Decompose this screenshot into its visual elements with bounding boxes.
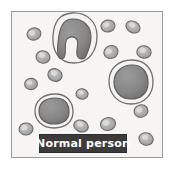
lymphocyte-cell xyxy=(35,94,73,128)
lymphocyte-nucleus xyxy=(39,98,69,124)
band-neutrophil-cell xyxy=(53,13,97,63)
blood-smear-figure: Normal person xyxy=(0,0,174,171)
lymphocyte-nucleus xyxy=(114,65,148,99)
red-blood-cell xyxy=(24,78,38,90)
lymphocyte-cell xyxy=(109,60,153,104)
caption-label: Normal person xyxy=(36,138,130,149)
caption-banner: Normal person xyxy=(39,134,127,153)
